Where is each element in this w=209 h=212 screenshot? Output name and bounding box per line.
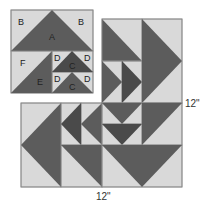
label-d-bottom-right: D	[84, 74, 91, 84]
quilt-block-diagram: B B A F E D D C D D C 12" 12"	[0, 0, 209, 212]
label-b-left: B	[18, 17, 24, 27]
width-dimension-label: 12"	[96, 191, 111, 202]
label-d-top-right: D	[84, 53, 91, 63]
label-c-bottom: C	[69, 82, 76, 92]
unit-block: B B A F E D D C D D C	[11, 10, 93, 93]
label-f: F	[20, 58, 26, 68]
label-d-top-left: D	[54, 53, 61, 63]
quadrant-top-right	[102, 19, 182, 103]
label-e: E	[37, 77, 43, 87]
label-b-right: B	[78, 17, 84, 27]
quadrant-bottom-left	[21, 103, 102, 187]
quadrant-bottom-right	[102, 103, 182, 187]
label-a: A	[49, 32, 55, 42]
height-dimension-label: 12"	[185, 98, 200, 109]
label-d-bottom-left: D	[54, 74, 61, 84]
label-c-top: C	[69, 61, 76, 71]
